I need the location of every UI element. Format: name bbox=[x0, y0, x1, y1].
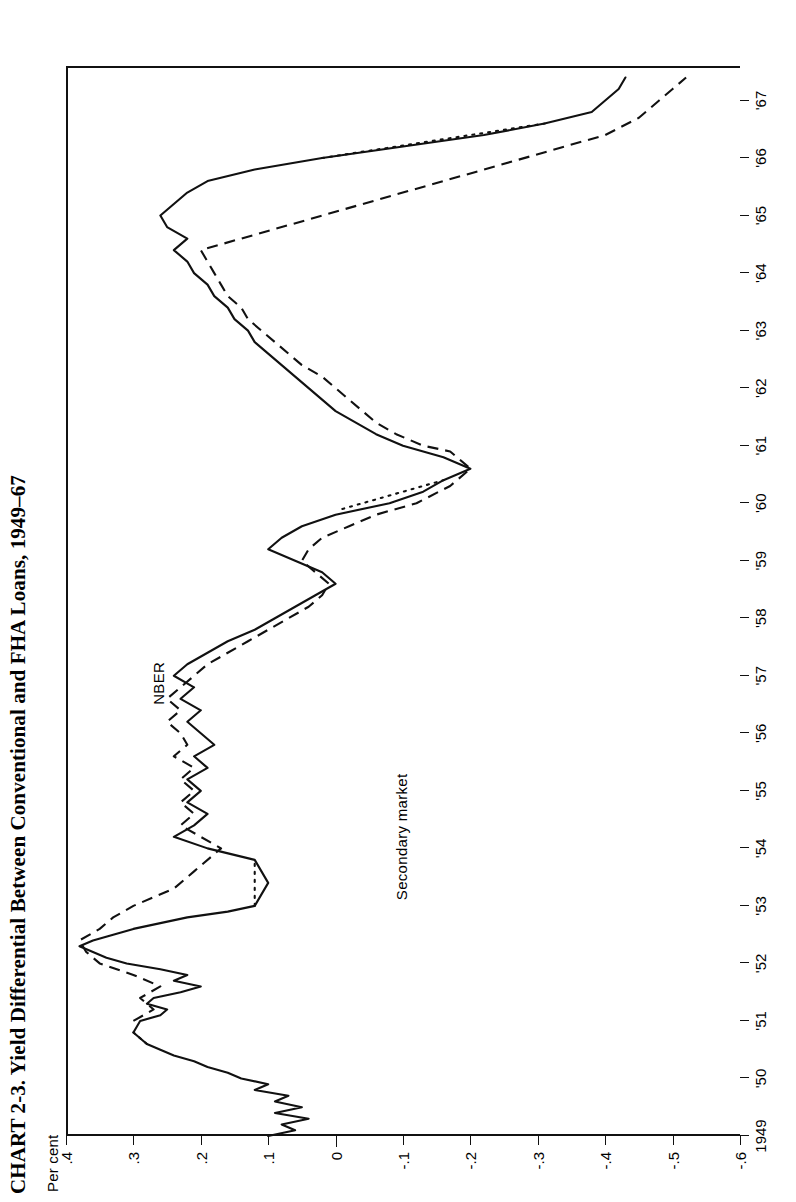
y-tick-label: -.1 bbox=[395, 1152, 412, 1194]
y-tick-label: -.3 bbox=[529, 1152, 546, 1194]
y-tick bbox=[740, 1136, 741, 1145]
x-tick-label: 1949 bbox=[752, 1119, 769, 1152]
y-tick-label: -.2 bbox=[462, 1152, 479, 1194]
y-tick-label: .2 bbox=[192, 1152, 209, 1194]
series-label-secondary-market: Secondary market bbox=[393, 774, 410, 901]
x-tick-label: '56 bbox=[752, 724, 769, 744]
x-tick bbox=[740, 100, 749, 101]
y-tick bbox=[538, 1136, 539, 1145]
x-tick bbox=[740, 675, 749, 676]
series-line-secondary-market bbox=[79, 78, 625, 1136]
plot-area: .4.3.2.10-.1-.2-.3-.4-.5-.6 1949'50'51'5… bbox=[66, 66, 740, 1136]
x-tick-label: '55 bbox=[752, 781, 769, 801]
x-tick-label: '66 bbox=[752, 148, 769, 168]
y-tick bbox=[470, 1136, 471, 1145]
y-tick bbox=[66, 1136, 67, 1145]
y-tick-label: .1 bbox=[260, 1152, 277, 1194]
x-tick-label: '60 bbox=[752, 493, 769, 513]
x-tick-label: '62 bbox=[752, 378, 769, 398]
x-tick bbox=[740, 905, 749, 906]
x-tick-label: '52 bbox=[752, 954, 769, 974]
x-tick bbox=[740, 157, 749, 158]
y-tick-label: .4 bbox=[58, 1152, 75, 1194]
x-tick-label: '51 bbox=[752, 1011, 769, 1031]
x-tick-label: '64 bbox=[752, 263, 769, 283]
x-tick bbox=[740, 502, 749, 503]
x-tick bbox=[740, 1135, 749, 1136]
x-tick bbox=[740, 617, 749, 618]
y-tick bbox=[605, 1136, 606, 1145]
series-interpolated-segment bbox=[342, 480, 443, 509]
x-tick bbox=[740, 445, 749, 446]
x-tick bbox=[740, 330, 749, 331]
x-tick bbox=[740, 962, 749, 963]
x-tick-label: '50 bbox=[752, 1069, 769, 1089]
y-tick-label: -.4 bbox=[597, 1152, 614, 1194]
series-line-nber bbox=[79, 78, 686, 1021]
x-tick-label: '65 bbox=[752, 206, 769, 226]
page-title: CHART 2-3. Yield Differential Between Co… bbox=[6, 475, 31, 1194]
x-tick bbox=[740, 1020, 749, 1021]
scanned-chart-page: CHART 2-3. Yield Differential Between Co… bbox=[0, 0, 796, 1202]
x-tick bbox=[740, 560, 749, 561]
data-lines bbox=[66, 66, 740, 1136]
x-tick-label: '59 bbox=[752, 551, 769, 571]
series-label-nber: NBER bbox=[150, 662, 167, 705]
y-tick-label: 0 bbox=[327, 1152, 344, 1194]
x-tick bbox=[740, 790, 749, 791]
x-tick bbox=[740, 272, 749, 273]
x-tick bbox=[740, 732, 749, 733]
y-tick-label: .3 bbox=[125, 1152, 142, 1194]
x-tick bbox=[740, 1077, 749, 1078]
x-tick-label: '61 bbox=[752, 436, 769, 456]
x-tick-label: '54 bbox=[752, 839, 769, 859]
x-tick bbox=[740, 387, 749, 388]
y-tick bbox=[403, 1136, 404, 1145]
x-tick-label: '67 bbox=[752, 91, 769, 111]
y-tick bbox=[673, 1136, 674, 1145]
y-tick-label: -.6 bbox=[732, 1152, 749, 1194]
y-tick bbox=[133, 1136, 134, 1145]
x-tick bbox=[740, 215, 749, 216]
y-tick bbox=[201, 1136, 202, 1145]
y-tick bbox=[268, 1136, 269, 1145]
x-tick-label: '63 bbox=[752, 321, 769, 341]
series-interpolated-segment bbox=[133, 1032, 146, 1044]
x-tick-label: '53 bbox=[752, 896, 769, 916]
y-tick-label: -.5 bbox=[664, 1152, 681, 1194]
series-interpolated-segment bbox=[322, 124, 544, 159]
x-tick-label: '58 bbox=[752, 608, 769, 628]
x-tick bbox=[740, 847, 749, 848]
x-tick-label: '57 bbox=[752, 666, 769, 686]
chart-sheet: CHART 2-3. Yield Differential Between Co… bbox=[0, 0, 796, 1202]
y-tick bbox=[336, 1136, 337, 1147]
